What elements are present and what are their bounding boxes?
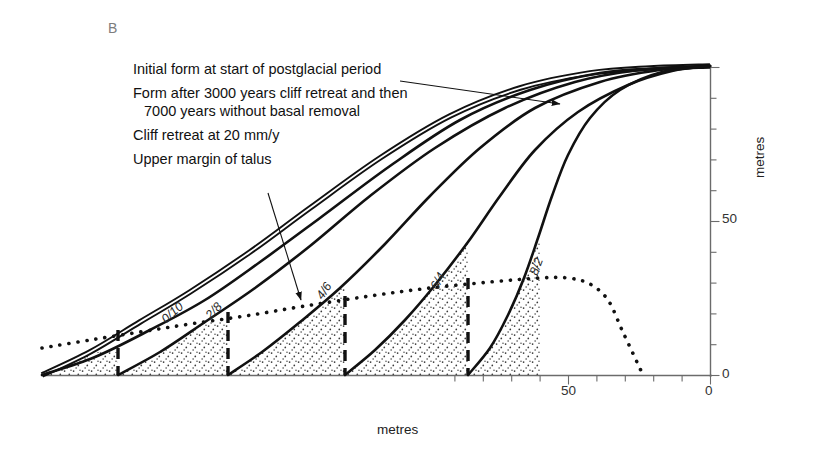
x-tick-0: 0 <box>705 383 713 398</box>
y-tick-50: 50 <box>722 211 737 226</box>
profile-curve-0-10 <box>42 66 710 375</box>
y-tick-0: 0 <box>722 366 730 381</box>
talus-wedge-3 <box>345 242 468 376</box>
initial-form-curve-inner <box>42 66 710 375</box>
profile-curves <box>42 66 710 375</box>
leader-lines <box>268 81 560 300</box>
leader-upper-margin-talus <box>268 193 301 300</box>
axis-ticks <box>455 68 720 385</box>
axis-lines <box>42 66 712 377</box>
x-axis-label: metres <box>377 422 418 437</box>
y-axis-label: metres <box>752 137 767 178</box>
x-tick-50: 50 <box>561 383 576 398</box>
talus-wedge-4 <box>468 238 540 376</box>
initial-form-curve-outer <box>42 66 710 375</box>
slope-profile-chart <box>0 0 822 467</box>
